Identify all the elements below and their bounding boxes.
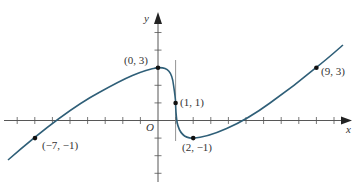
y-axis-arrow-icon: [154, 12, 162, 24]
point-9-3: [314, 65, 319, 70]
point-neg7-neg1: [33, 136, 38, 141]
origin-label: O: [146, 121, 154, 133]
label-0-3: (0, 3): [124, 54, 148, 67]
x-axis-label: x: [345, 123, 351, 135]
y-axis-label: y: [143, 12, 149, 24]
point-2-neg1: [191, 136, 196, 141]
function-graph: (−7, −1) (0, 3) (1, 1) (2, −1) (9, 3) y …: [0, 0, 357, 188]
label-neg7-neg1: (−7, −1): [42, 139, 79, 152]
label-2-neg1: (2, −1): [182, 141, 212, 154]
point-0-3: [156, 65, 161, 70]
label-1-1: (1, 1): [180, 96, 204, 109]
point-1-1: [173, 101, 178, 106]
y-axis: [154, 12, 162, 182]
label-9-3: (9, 3): [321, 65, 345, 78]
